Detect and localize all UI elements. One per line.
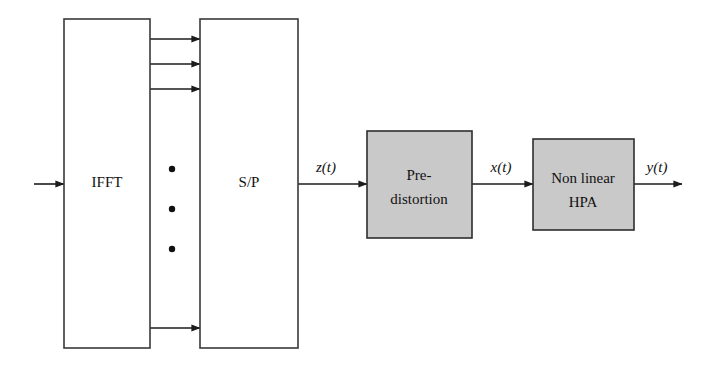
ellipsis-dot-1 bbox=[169, 166, 175, 172]
sp-label: S/P bbox=[239, 174, 260, 190]
hpa-label-line2: HPA bbox=[569, 194, 598, 210]
predistortion-box[interactable] bbox=[367, 131, 472, 238]
signal-label-x: x(t) bbox=[490, 159, 512, 176]
block-sp[interactable]: S/P bbox=[200, 19, 298, 348]
hpa-label-line1: Non linear bbox=[551, 170, 615, 186]
signal-label-z: z(t) bbox=[315, 159, 336, 176]
predistortion-label-line1: Pre- bbox=[407, 167, 432, 183]
block-hpa[interactable]: Non linear HPA bbox=[533, 139, 634, 230]
ellipsis-dot-2 bbox=[169, 206, 175, 212]
ellipsis-dot-3 bbox=[169, 246, 175, 252]
block-predistortion[interactable]: Pre- distortion bbox=[367, 131, 472, 238]
signal-label-y: y(t) bbox=[645, 159, 668, 176]
block-ifft[interactable]: IFFT bbox=[64, 19, 150, 348]
ifft-label: IFFT bbox=[92, 174, 123, 190]
block-diagram: IFFT S/P Pre- distortion Non linear HPA … bbox=[0, 0, 708, 368]
subcarrier-ellipsis bbox=[169, 166, 175, 252]
diagram-canvas: IFFT S/P Pre- distortion Non linear HPA … bbox=[0, 0, 708, 368]
predistortion-label-line2: distortion bbox=[390, 191, 448, 207]
